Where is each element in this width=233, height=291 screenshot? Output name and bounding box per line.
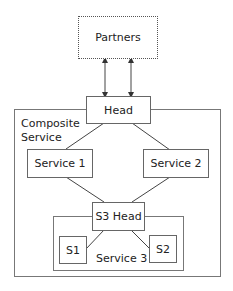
- s3-head-label: S3 Head: [95, 210, 141, 223]
- s1-label: S1: [66, 244, 80, 257]
- service1-node: Service 1: [27, 149, 93, 178]
- s3-head-node: S3 Head: [92, 202, 145, 231]
- service2-label: Service 2: [150, 157, 201, 170]
- s2-node: S2: [149, 235, 177, 263]
- s2-label: S2: [156, 243, 170, 256]
- service3-label: Service 3: [96, 252, 147, 266]
- service1-label: Service 1: [34, 157, 85, 170]
- head-node: Head: [86, 96, 151, 124]
- head-label: Head: [104, 104, 133, 117]
- service2-node: Service 2: [143, 149, 209, 178]
- s1-node: S1: [59, 236, 87, 264]
- partners-node: Partners: [78, 16, 158, 59]
- partners-label: Partners: [95, 31, 141, 44]
